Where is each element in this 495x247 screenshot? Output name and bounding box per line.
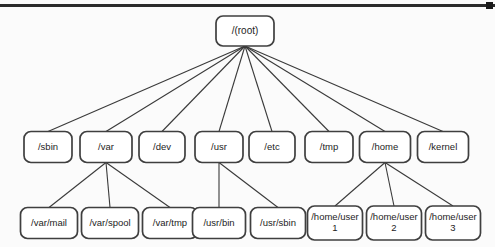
node-sbin[interactable]: /sbin (24, 132, 72, 163)
directory-tree-diagram: /(root)/sbin/var/dev/usr/etc/tmp/home/ke… (0, 0, 495, 247)
node-usr-sbin-label: /usr/sbin (260, 217, 296, 228)
edge-home-to-home-user1 (335, 163, 385, 207)
node-tmp[interactable]: /tmp (305, 132, 353, 163)
node-var-mail-label: /var/mail (31, 217, 67, 228)
node-etc-label: /etc (264, 141, 280, 152)
node-var-label: /var (98, 141, 114, 152)
edge-root-to-tmp (245, 46, 329, 132)
node-usr-bin[interactable]: /usr/bin (193, 208, 246, 239)
node-home-label: /home (372, 141, 398, 152)
node-tmp-label: /tmp (320, 141, 338, 152)
node-sbin-label: /sbin (38, 141, 58, 152)
node-home-user1[interactable]: /home/user1 (308, 206, 363, 240)
edge-var-to-var-tmp (106, 163, 170, 208)
node-var-tmp-label: /var/tmp (153, 217, 187, 228)
node-home-user2[interactable]: /home/user2 (367, 206, 422, 240)
node-var-mail[interactable]: /var/mail (21, 208, 78, 239)
edge-var-to-var-spool (106, 163, 110, 208)
node-var-spool-label: /var/spool (89, 217, 130, 228)
edge-root-to-etc (245, 46, 272, 132)
node-var-spool[interactable]: /var/spool (82, 208, 139, 239)
edge-root-to-kernel (245, 46, 443, 132)
node-kernel[interactable]: /kernel (418, 132, 469, 163)
edge-home-to-home-user2 (385, 163, 394, 207)
node-usr-sbin[interactable]: /usr/sbin (251, 208, 306, 239)
edge-var-to-var-mail (49, 163, 106, 208)
node-usr-label: /usr (211, 141, 227, 152)
node-kernel-label: /kernel (429, 141, 458, 152)
node-dev[interactable]: /dev (139, 132, 185, 163)
diagram-canvas: /(root)/sbin/var/dev/usr/etc/tmp/home/ke… (0, 0, 495, 247)
edge-root-to-var (106, 46, 245, 132)
edge-usr-to-usr-sbin (219, 163, 278, 208)
edge-root-to-home (245, 46, 385, 132)
node-var[interactable]: /var (80, 132, 132, 163)
node-etc[interactable]: /etc (249, 132, 295, 163)
edges-layer (48, 46, 453, 208)
node-usr-bin-label: /usr/bin (203, 217, 234, 228)
node-dev-label: /dev (153, 141, 171, 152)
edge-root-to-sbin (48, 46, 245, 132)
node-home-user3[interactable]: /home/user3 (426, 206, 481, 240)
edge-home-to-home-user3 (385, 163, 453, 207)
node-var-tmp[interactable]: /var/tmp (143, 208, 198, 239)
node-root[interactable]: /(root) (216, 16, 274, 46)
node-usr[interactable]: /usr (195, 132, 243, 163)
node-home[interactable]: /home (360, 132, 411, 163)
node-root-label: /(root) (232, 25, 259, 36)
